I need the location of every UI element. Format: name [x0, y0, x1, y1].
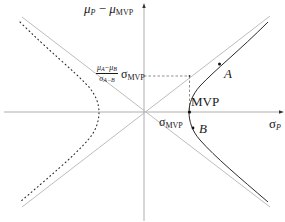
sigma-mvp-label: σMVP: [159, 116, 183, 130]
sigma-symbol: σ: [269, 116, 276, 131]
point-mvp-label: MVP: [191, 95, 219, 108]
tangent-point-dot: [189, 75, 191, 77]
point-b-dot: [192, 127, 195, 130]
y-axis-arrow-icon: [142, 3, 145, 8]
x-axis-arrow-icon: [279, 110, 284, 113]
y-axis-label: μP − μMVP: [84, 2, 133, 17]
ratio-fraction: μA−μB σA−B: [96, 64, 118, 83]
point-mvp-dot: [188, 110, 191, 113]
subscript-mvp: MVP: [127, 73, 144, 82]
sub-b: B: [113, 66, 117, 72]
diagram-graphics: [0, 0, 285, 222]
sigma-mvp-multiplier: σMVP: [121, 68, 145, 82]
frontier-diagram: μP − μMVP σP μA−μB σA−B σMVP σMVP A MVP …: [0, 0, 285, 222]
sub-ab: A−B: [103, 77, 114, 83]
point-a-dot: [218, 63, 221, 66]
point-b-label: B: [199, 122, 207, 135]
x-axis-label: σP: [269, 117, 281, 132]
fraction-denominator: σA−B: [99, 74, 114, 83]
subscript-p: P: [276, 123, 281, 132]
point-a-label: A: [224, 67, 232, 80]
subscript-mvp: MVP: [116, 8, 133, 17]
minus-sign: −: [95, 1, 109, 16]
fraction-numerator: μA−μB: [96, 64, 118, 74]
subscript-mvp: MVP: [165, 121, 182, 130]
